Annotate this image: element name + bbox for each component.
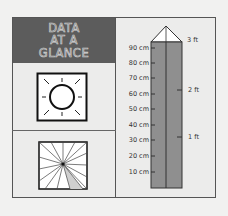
- cm-label-70: 70 cm: [115, 74, 149, 82]
- cm-label-90: 90 cm: [115, 44, 149, 52]
- ft-label-1: 1 ft: [188, 133, 199, 141]
- cm-label-30: 30 cm: [115, 136, 149, 144]
- cm-label-60: 60 cm: [115, 90, 149, 98]
- cm-label-20: 20 cm: [115, 152, 149, 160]
- cm-label-10: 10 cm: [115, 168, 149, 176]
- ft-label-2: 2 ft: [188, 86, 199, 94]
- sun-icon: [36, 72, 88, 122]
- cm-label-80: 80 cm: [115, 59, 149, 67]
- title-line-3: GLANCE: [39, 47, 89, 60]
- height-ruler-graphic: [148, 24, 186, 190]
- horizontal-divider: [12, 130, 116, 131]
- title-banner: DATA AT A GLANCE: [13, 18, 115, 63]
- cm-label-50: 50 cm: [115, 105, 149, 113]
- pinwheel-icon: [38, 141, 88, 190]
- ft-label-3: 3 ft: [187, 36, 198, 44]
- cm-label-40: 40 cm: [115, 121, 149, 129]
- title-line-2: AT A: [50, 34, 78, 47]
